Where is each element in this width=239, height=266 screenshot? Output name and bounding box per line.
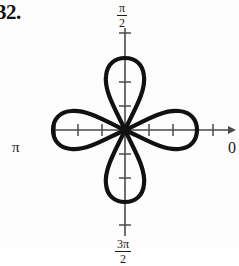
origin-point (122, 127, 129, 134)
fraction-denominator: 2 (117, 17, 127, 30)
fraction-numerator: 3π (115, 238, 131, 251)
axis-label-3pi-over-2: 3π 2 (115, 238, 131, 266)
fraction-numerator: π (117, 2, 127, 15)
axis-label-pi-left: π (12, 140, 20, 155)
axis-label-zero-right: 0 (228, 140, 236, 156)
axes-group (55, 28, 236, 236)
fraction-3pi-over-2: 3π 2 (115, 238, 131, 265)
fraction-denominator: 2 (115, 253, 131, 266)
x-axis-arrow-icon (228, 126, 236, 134)
axis-label-pi-over-2: π 2 (117, 2, 127, 30)
fraction-pi-over-2: π 2 (117, 2, 127, 29)
